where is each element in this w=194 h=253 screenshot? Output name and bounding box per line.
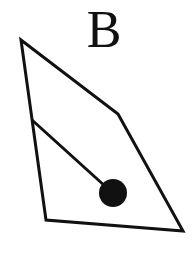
pendulum-ball <box>99 179 127 207</box>
pendulum-rod <box>32 120 106 187</box>
diagram-canvas <box>0 0 194 253</box>
quadrilateral-outline <box>21 40 183 231</box>
